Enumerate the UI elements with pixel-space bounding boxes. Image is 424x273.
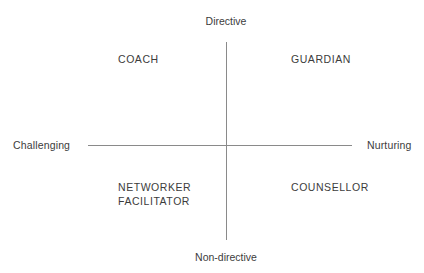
quadrant-diagram: Directive Non-directive Challenging Nurt…: [0, 0, 424, 273]
axis-label-nurturing: Nurturing: [367, 139, 412, 152]
axis-label-non-directive: Non-directive: [195, 251, 257, 263]
horizontal-axis-line: [88, 145, 352, 146]
axis-label-challenging: Challenging: [13, 139, 70, 152]
vertical-axis-line: [226, 42, 227, 240]
quadrant-label-coach: COACH: [118, 52, 159, 66]
quadrant-label-guardian: GUARDIAN: [291, 52, 351, 66]
axis-label-directive: Directive: [206, 15, 247, 27]
quadrant-label-networker-facilitator: NETWORKER FACILITATOR: [118, 180, 191, 208]
quadrant-label-counsellor: COUNSELLOR: [291, 180, 369, 194]
